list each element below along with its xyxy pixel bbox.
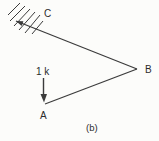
- node-label-B: B: [145, 64, 152, 75]
- member-C-B: [16, 21, 137, 69]
- force-label: 1 k: [36, 66, 50, 77]
- node-label-A: A: [40, 110, 47, 121]
- truss-diagram-canvas: 1 k C B A (b): [0, 0, 159, 141]
- node-label-C: C: [44, 8, 51, 19]
- force-arrow-down-icon: [41, 78, 48, 103]
- figure-caption: (b): [86, 122, 98, 133]
- truss-diagram: 1 k C B A (b): [0, 0, 159, 141]
- member-A-B: [45, 69, 137, 104]
- support-arrowhead-icon: [16, 21, 23, 26]
